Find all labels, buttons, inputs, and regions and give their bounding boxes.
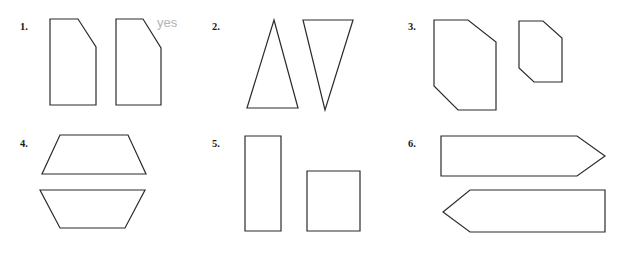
problem-number-2: 2. bbox=[212, 22, 220, 33]
shape-trapezoid-upright[interactable] bbox=[42, 135, 146, 174]
problem-number-3: 3. bbox=[408, 22, 416, 33]
shape-arrow-pentagon-left[interactable] bbox=[443, 190, 605, 232]
shape-trapezoid-inverted[interactable] bbox=[40, 190, 145, 228]
shape-square[interactable] bbox=[307, 171, 360, 231]
shape-triangle-up[interactable] bbox=[247, 20, 298, 108]
problem-number-6: 6. bbox=[408, 139, 416, 150]
shape-arrow-pentagon-right[interactable] bbox=[441, 136, 605, 176]
shape-rectangle-tall[interactable] bbox=[245, 136, 281, 231]
problem-number-1: 1. bbox=[20, 22, 28, 33]
problem-number-5: 5. bbox=[212, 139, 220, 150]
worksheet-page: 1. 2. 3. 4. 5. 6. yes bbox=[0, 0, 635, 257]
answer-annotation-yes: yes bbox=[157, 16, 177, 29]
shape-hexagon-small[interactable] bbox=[519, 21, 562, 82]
shape-pentagon-clipped-rectangle-left[interactable] bbox=[50, 19, 96, 105]
problem-number-4: 4. bbox=[20, 139, 28, 150]
shape-canvas bbox=[0, 0, 635, 257]
shape-hexagon-large[interactable] bbox=[434, 20, 496, 110]
shape-triangle-down[interactable] bbox=[303, 20, 353, 110]
shape-pentagon-clipped-rectangle-right[interactable] bbox=[116, 19, 161, 105]
